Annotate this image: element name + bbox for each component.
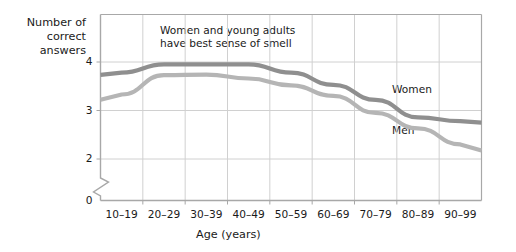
data-series [101,64,482,150]
series-line-men [101,75,482,151]
smell-sense-line-chart: Number of correct answers Age (years) Wo… [0,0,516,252]
series-line-women [101,64,482,122]
plot-area [0,0,516,252]
axis-lines [94,15,482,205]
y-axis-with-break [94,15,109,201]
gridlines [101,15,482,201]
